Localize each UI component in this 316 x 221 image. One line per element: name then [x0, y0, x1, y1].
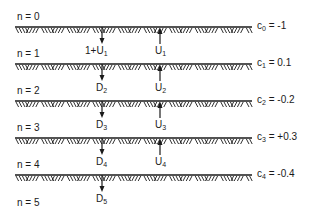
hatching-1 — [16, 65, 252, 70]
layer-label-5: n = 5 — [17, 198, 40, 208]
layer-label-0-text: n = 0 — [17, 11, 40, 22]
layer-label-2: n = 2 — [17, 86, 40, 96]
layer-label-3-text: n = 3 — [17, 122, 40, 133]
down-wave-label-0-text: 1+U — [85, 45, 104, 56]
down-arrow-icon-2 — [100, 112, 105, 118]
coef-value: = +0.3 — [266, 131, 297, 142]
up-wave-label-3-subscript: 4 — [162, 161, 166, 168]
down-arrow-icon-0 — [100, 38, 105, 44]
hatching-3 — [16, 139, 252, 144]
up-wave-label-0: U1 — [155, 46, 166, 59]
down-wave-label-3: D4 — [96, 157, 107, 170]
down-wave-label-4-subscript: 5 — [103, 198, 107, 205]
reflection-coefficient-3: c3 = +0.3 — [257, 132, 297, 145]
down-wave-label-0: 1+U1 — [85, 46, 108, 59]
up-wave-label-3: U4 — [155, 157, 166, 170]
layer-label-1-text: n = 1 — [17, 48, 40, 59]
layer-label-3: n = 3 — [17, 123, 40, 133]
coef-value: = -1 — [266, 20, 286, 31]
down-wave-label-4: D5 — [96, 194, 107, 207]
down-wave-label-1-subscript: 2 — [103, 87, 107, 94]
layer-label-0: n = 0 — [17, 12, 40, 22]
up-wave-label-1: U2 — [155, 83, 166, 96]
layer-label-2-text: n = 2 — [17, 85, 40, 96]
reflection-coefficient-0: c0 = -1 — [257, 21, 286, 34]
hatching-0 — [16, 28, 252, 33]
layer-label-5-text: n = 5 — [17, 197, 40, 208]
down-wave-label-2-subscript: 3 — [103, 124, 107, 131]
reflection-coefficient-2: c2 = -0.2 — [257, 95, 295, 108]
down-arrow-icon-4 — [100, 186, 105, 192]
layer-label-1: n = 1 — [17, 49, 40, 59]
coef-value: = -0.2 — [266, 94, 295, 105]
reflection-coefficient-4: c4 = -0.4 — [257, 169, 295, 182]
hatching-4 — [16, 176, 252, 181]
down-wave-label-2: D3 — [96, 120, 107, 133]
layer-label-4-text: n = 4 — [17, 159, 40, 170]
up-wave-label-1-subscript: 2 — [162, 87, 166, 94]
layered-earth-reflection-diagram: c0 = -1c1 = 0.1c2 = -0.2c3 = +0.3c4 = -0… — [0, 0, 316, 221]
coef-value: = 0.1 — [266, 57, 291, 68]
up-wave-label-2: U3 — [155, 120, 166, 133]
down-arrow-icon-3 — [100, 149, 105, 155]
down-arrow-icon-1 — [100, 75, 105, 81]
down-wave-label-1: D2 — [96, 83, 107, 96]
coef-value: = -0.4 — [266, 168, 295, 179]
down-wave-label-0-subscript: 1 — [104, 50, 108, 57]
up-wave-label-2-subscript: 3 — [162, 124, 166, 131]
down-wave-label-3-subscript: 4 — [103, 161, 107, 168]
hatching-2 — [16, 102, 252, 107]
reflection-coefficient-1: c1 = 0.1 — [257, 58, 291, 71]
layer-label-4: n = 4 — [17, 160, 40, 170]
up-wave-label-0-subscript: 1 — [162, 50, 166, 57]
